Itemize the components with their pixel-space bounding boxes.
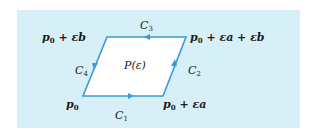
region-label: P(ε) — [124, 60, 146, 71]
curve-label-c2: C2 — [188, 65, 201, 78]
vertex-label-p0-ea: p0 + εa — [163, 99, 206, 111]
vertex-label-p0-ea-eb: p0 + εa + εb — [190, 32, 265, 44]
curve-label-c1: C1 — [115, 110, 128, 123]
vertex-label-p0: p0 — [66, 99, 79, 111]
curve-label-c3: C3 — [140, 20, 153, 33]
parallelogram-diagram — [0, 0, 316, 136]
vertex-label-p0-eb: p0 + εb — [42, 32, 86, 44]
curve-label-c4: C4 — [75, 65, 88, 78]
